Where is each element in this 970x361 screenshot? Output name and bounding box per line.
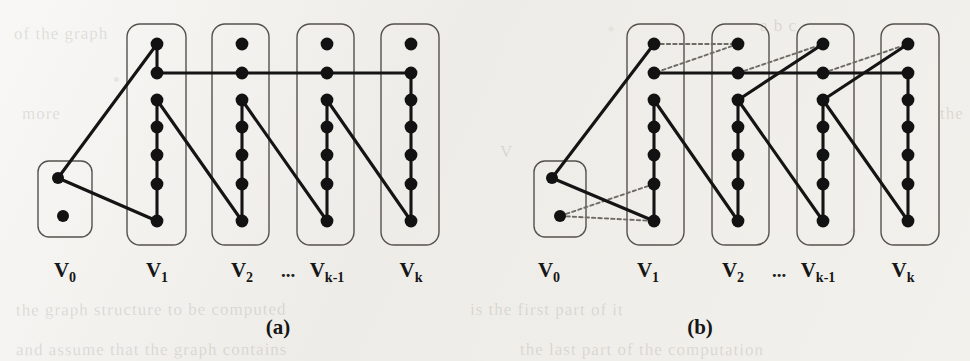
graph-vertex [151,149,164,162]
graph-vertex [236,121,249,134]
graph-vertex [321,38,334,51]
graph-vertex [321,178,334,191]
graph-vertex [52,172,64,184]
graph-vertex [151,94,164,107]
graph-vertex [648,215,661,228]
graph-vertex [648,121,661,134]
graph-edge-solid [823,100,908,221]
graph-vertex [236,94,249,107]
column-label: Vk-1 [801,258,836,285]
panel-caption-b: (b) [687,315,713,339]
graph-vertex [648,149,661,162]
graph-vertex [236,38,249,51]
column-label: V0 [538,258,560,285]
graph-edge-dotted [738,44,823,73]
graph-vertex [817,121,830,134]
graph-vertex [236,67,249,80]
column-label: V0 [54,258,76,285]
graph-vertex [902,149,915,162]
graph-vertex [321,67,334,80]
graph-edge-solid [157,100,242,221]
panel-b: V0V1V2Vk-1Vk...(b) [534,24,939,339]
group-v0 [534,161,586,237]
graph-vertex [405,178,418,191]
graph-vertex [151,121,164,134]
graph-edge-solid [58,178,157,221]
graph-vertex [405,149,418,162]
graph-vertex [902,94,915,107]
graph-vertex [902,38,915,51]
graph-vertex [732,67,745,80]
graph-vertex [321,94,334,107]
graph-edge-solid [552,178,654,221]
column-label: V1 [146,258,168,285]
graph-vertex [405,38,418,51]
graph-edge-solid [58,44,157,178]
graph-vertex [554,210,566,222]
graph-vertex [648,178,661,191]
graph-vertex [817,94,830,107]
graph-vertex [817,38,830,51]
graph-edge-solid [738,100,823,221]
graph-vertex [546,172,558,184]
graph-edge-solid [327,100,411,221]
panel-a: V0V1V2Vk-1Vk...(a) [38,24,439,339]
graph-vertex [405,67,418,80]
graph-vertex [732,38,745,51]
graph-vertex [648,38,661,51]
graph-edge-dotted [823,44,908,73]
column-ellipsis: ... [281,260,295,281]
graph-vertex [405,94,418,107]
graph-vertex [902,67,915,80]
graph-vertex [321,149,334,162]
graph-vertex [151,178,164,191]
graph-vertex [902,215,915,228]
graph-vertex [817,215,830,228]
group-v0 [38,161,92,237]
graph-vertex [236,215,249,228]
graph-edge-solid [242,100,327,221]
graph-vertex [405,121,418,134]
graph-vertex [817,149,830,162]
graph-edge-dotted [654,44,738,73]
graph-vertex [57,210,69,222]
column-label: Vk [892,258,915,285]
figure-page: of the grapha b cmoretheVthe graph struc… [0,0,970,361]
layered-graph-figure: V0V1V2Vk-1Vk...(a)V0V1V2Vk-1Vk...(b) [0,0,970,361]
graph-vertex [151,38,164,51]
graph-edge-dotted [560,216,654,221]
graph-vertex [321,121,334,134]
graph-vertex [321,215,334,228]
graph-vertex [151,215,164,228]
column-ellipsis: ... [772,260,786,281]
graph-vertex [817,67,830,80]
graph-vertex [902,178,915,191]
panel-caption-a: (a) [266,315,291,339]
column-label: V2 [231,258,253,285]
graph-edge-solid [552,44,654,178]
graph-vertex [648,67,661,80]
graph-vertex [236,178,249,191]
graph-vertex [732,94,745,107]
column-label: Vk [400,258,423,285]
column-label: V2 [722,258,744,285]
graph-vertex [151,67,164,80]
graph-edge-solid [654,100,738,221]
column-label: Vk-1 [310,258,345,285]
graph-vertex [817,178,830,191]
column-label: V1 [637,258,659,285]
graph-vertex [902,121,915,134]
graph-vertex [732,121,745,134]
graph-vertex [648,94,661,107]
graph-vertex [732,215,745,228]
graph-vertex [405,215,418,228]
graph-vertex [236,149,249,162]
graph-vertex [732,149,745,162]
graph-vertex [732,178,745,191]
